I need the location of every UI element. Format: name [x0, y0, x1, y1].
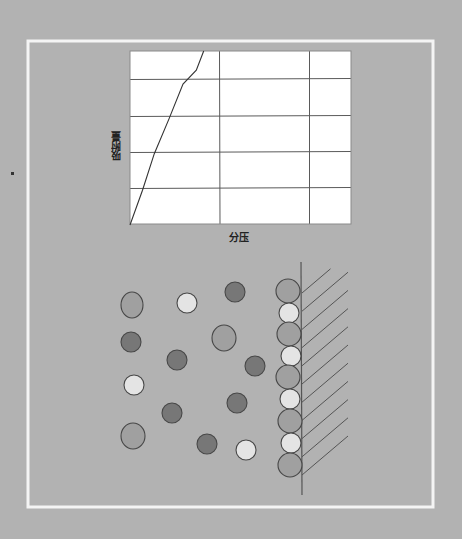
adsorbed-molecule-light — [281, 346, 301, 366]
gas-molecule-dark — [245, 356, 265, 376]
gas-molecule-dark — [225, 282, 245, 302]
hatch-line — [302, 327, 348, 366]
hatch-line — [302, 418, 348, 457]
hatch-line — [302, 381, 348, 420]
hatch-line — [302, 363, 348, 402]
gas-phase-molecules — [121, 282, 265, 460]
hatch-line — [302, 345, 348, 384]
solid-surface — [301, 262, 348, 495]
hatch-line — [302, 436, 348, 475]
hatch-line — [302, 309, 348, 348]
hatch-line — [302, 272, 348, 311]
gas-molecule-light — [124, 375, 144, 395]
gas-molecule-light — [177, 293, 197, 313]
grid-line-v — [220, 51, 221, 224]
gas-molecule-dark — [227, 393, 247, 413]
hatch-line — [302, 400, 348, 439]
adsorbed-molecule-medium — [277, 322, 301, 346]
y-axis-label: 吸附量 — [109, 131, 124, 161]
figure-canvas — [0, 0, 462, 539]
gas-molecule-medium — [212, 325, 236, 351]
gas-molecule-medium — [121, 423, 145, 449]
chart-plot-area — [130, 51, 351, 224]
gas-molecule-light — [236, 440, 256, 460]
adsorbed-molecule-medium — [278, 453, 302, 477]
adsorbed-molecule-medium — [278, 409, 302, 433]
x-axis-label: 分压 — [229, 229, 249, 244]
gas-molecule-dark — [197, 434, 217, 454]
gas-molecule-dark — [162, 403, 182, 423]
hatch-line — [302, 269, 331, 293]
adsorbed-molecule-medium — [276, 279, 300, 303]
surface-hatching — [302, 269, 348, 475]
adsorbed-molecule-light — [281, 433, 301, 453]
gas-molecule-dark — [121, 332, 141, 352]
adsorbed-monolayer — [276, 279, 302, 477]
stray-dot — [11, 172, 14, 175]
adsorbed-molecule-medium — [276, 365, 300, 389]
adsorbed-molecule-light — [280, 389, 300, 409]
adsorption-isotherm-chart — [130, 51, 351, 225]
hatch-line — [302, 290, 348, 329]
gas-molecule-dark — [167, 350, 187, 370]
adsorbed-molecule-light — [279, 303, 299, 323]
gas-molecule-medium — [121, 292, 143, 318]
